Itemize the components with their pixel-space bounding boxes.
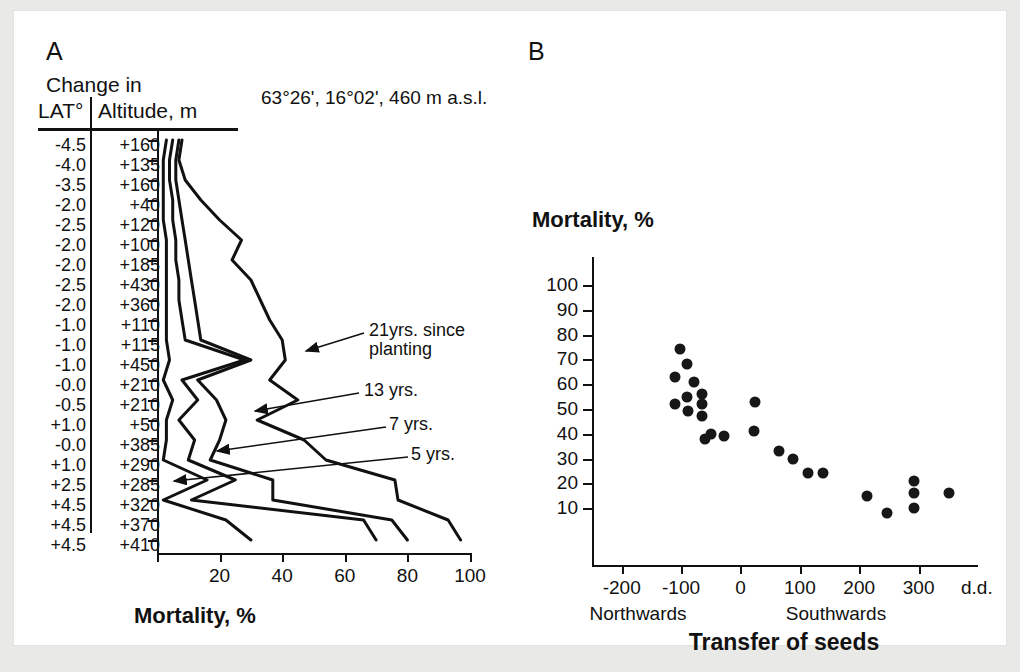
panel-a-y-tick	[148, 360, 157, 362]
table-row-altitude: +360	[98, 295, 160, 316]
panel-b-y-tick	[583, 459, 592, 461]
panel-a-y-tick	[148, 420, 157, 422]
panel-b-letter: B	[528, 37, 545, 66]
panel-b-y-tick-label: 60	[536, 373, 578, 395]
annotation-21yrs: 21yrs. since planting	[369, 321, 465, 359]
panel-b-y-tick	[583, 359, 592, 361]
panel-b-y-tick-label: 50	[536, 398, 578, 420]
table-row-lat: -1.0	[38, 335, 86, 356]
scatter-point	[861, 490, 872, 501]
panel-b-x-tick	[740, 565, 742, 574]
panel-a-y-tick	[148, 380, 157, 382]
table-row-lat: +1.0	[38, 455, 86, 476]
panel-b-y-tick	[583, 285, 592, 287]
panel-b-y-tick-label: 30	[536, 448, 578, 470]
scatter-point	[682, 359, 693, 370]
scatter-point	[748, 426, 759, 437]
panel-b-y-tick	[583, 409, 592, 411]
panel-b-x-tick-label: 100	[784, 577, 816, 599]
table-row-lat: +4.5	[38, 535, 86, 556]
table-row-altitude: +320	[98, 495, 160, 516]
panel-b-x-tick-label: -200	[603, 577, 641, 599]
panel-b-y-tick-label: 70	[536, 348, 578, 370]
annotation-5yrs: 5 yrs.	[411, 445, 455, 464]
scatter-point	[818, 468, 829, 479]
panel-b-y-tick-label: 80	[536, 324, 578, 346]
panel-b-northwards-label: Northwards	[589, 603, 686, 625]
panel-a-y-tick	[148, 340, 157, 342]
scatter-point	[696, 411, 707, 422]
panel-a-x-tick-label: 60	[334, 565, 355, 587]
panel-b-x-unit-label: d.d.	[961, 577, 993, 599]
table-row-altitude: +160	[98, 175, 160, 196]
table-row-altitude: +370	[98, 515, 160, 536]
table-row-lat: -2.0	[38, 235, 86, 256]
panel-b-x-tick	[859, 565, 861, 574]
scatter-point	[802, 468, 813, 479]
annotation-21yrs-line1: 21yrs. since	[369, 321, 465, 340]
table-row-altitude: +160	[98, 135, 160, 156]
table-row-lat: -4.5	[38, 135, 86, 156]
panel-a-y-tick	[148, 440, 157, 442]
panel-b-y-tick-label: 20	[536, 472, 578, 494]
table-row-altitude: +450	[98, 355, 160, 376]
panel-a-y-tick	[148, 240, 157, 242]
table-column-divider	[90, 97, 92, 533]
scatter-point	[881, 508, 892, 519]
panel-a-y-tick	[148, 460, 157, 462]
panel-a-y-tick	[148, 320, 157, 322]
panel-b-y-tick	[583, 384, 592, 386]
table-row-lat: +2.5	[38, 475, 86, 496]
scatter-point	[944, 488, 955, 499]
panel-b-y-tick-label: 10	[536, 497, 578, 519]
scatter-point	[787, 453, 798, 464]
table-row-altitude: +385	[98, 435, 160, 456]
panel-b-southwards-label: Southwards	[786, 603, 886, 625]
annotation-7yrs: 7 yrs.	[389, 415, 433, 434]
panel-a-y-tick	[148, 480, 157, 482]
panel-b-y-tick	[583, 335, 592, 337]
scatter-point	[675, 344, 686, 355]
panel-a-y-tick	[148, 520, 157, 522]
scatter-point	[682, 391, 693, 402]
table-row-altitude: +185	[98, 255, 160, 276]
panel-b-y-tick-label: 40	[536, 423, 578, 445]
panel-b-x-tick	[919, 565, 921, 574]
table-row-lat: -3.5	[38, 175, 86, 196]
scatter-point	[670, 371, 681, 382]
panel-a-y-tick	[148, 260, 157, 262]
scatter-point	[749, 396, 760, 407]
panel-b-y-tick	[583, 434, 592, 436]
table-row-altitude: +135	[98, 155, 160, 176]
scatter-point	[682, 406, 693, 417]
annotation-21yrs-line2: planting	[369, 340, 465, 359]
panel-b-x-axis-label: Transfer of seeds	[689, 629, 879, 656]
table-row-altitude: +100	[98, 235, 160, 256]
table-row-lat: -2.0	[38, 195, 86, 216]
table-row-altitude: +210	[98, 395, 160, 416]
scatter-point	[718, 431, 729, 442]
panel-b-x-tick-label: 300	[903, 577, 935, 599]
panel-b-x-tick-label: 0	[735, 577, 746, 599]
scatter-point	[670, 399, 681, 410]
panel-a-x-tick-label: 100	[454, 565, 486, 587]
table-row-altitude: +430	[98, 275, 160, 296]
panel-b-y-axis-label: Mortality, %	[532, 207, 654, 233]
panel-a-y-tick	[148, 300, 157, 302]
table-header-change-in: Change in	[46, 73, 142, 97]
scatter-point	[908, 503, 919, 514]
table-row-lat: +4.5	[38, 495, 86, 516]
annotation-13yrs: 13 yrs.	[364, 381, 418, 400]
scatter-point	[774, 446, 785, 457]
panel-b-y-axis	[592, 257, 594, 567]
scatter-point	[696, 399, 707, 410]
table-row-lat: +4.5	[38, 515, 86, 536]
panel-b-plot: 100908070605040302010 -200-1000100200300	[592, 257, 978, 567]
panel-b-x-tick	[622, 565, 624, 574]
table-row-altitude: +285	[98, 475, 160, 496]
panel-a-y-tick	[148, 140, 157, 142]
panel-b-x-tick-label: -100	[662, 577, 700, 599]
figure-canvas: A Change in LAT° Altitude, m -4.5+160-4.…	[14, 11, 1006, 645]
panel-a-site-coordinates: 63°26', 16°02', 460 m a.s.l.	[261, 87, 487, 109]
table-row-altitude: +40	[98, 195, 160, 216]
